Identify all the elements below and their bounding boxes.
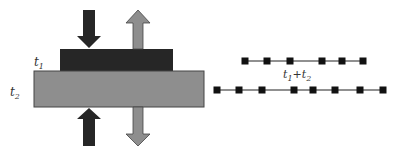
compress-down-arrow-icon — [77, 10, 101, 48]
chain-node — [339, 58, 346, 65]
chain-node — [357, 87, 364, 94]
tension-down-arrow-icon — [126, 107, 150, 146]
chain-top — [242, 58, 367, 65]
chain-node — [264, 58, 271, 65]
chain-node — [332, 87, 339, 94]
bonding-diagram — [0, 0, 403, 155]
layer-t1-block — [60, 49, 173, 71]
compress-up-arrow-icon — [77, 108, 101, 146]
chain-node — [214, 87, 221, 94]
chain-bottom — [214, 87, 387, 94]
chain-node — [380, 87, 387, 94]
chain-node — [236, 87, 243, 94]
label-t1: t1 — [34, 56, 44, 71]
tension-up-arrow-icon — [126, 10, 150, 49]
chain-node — [360, 58, 367, 65]
chain-node — [310, 87, 317, 94]
chain-node — [319, 58, 326, 65]
label-t2: t2 — [10, 86, 20, 101]
chain-node — [259, 87, 266, 94]
layer-t2-block — [34, 71, 204, 107]
chain-node — [287, 58, 294, 65]
chain-node — [291, 87, 298, 94]
label-t1-plus-t2: t1+t2 — [283, 69, 311, 83]
chain-node — [242, 58, 249, 65]
